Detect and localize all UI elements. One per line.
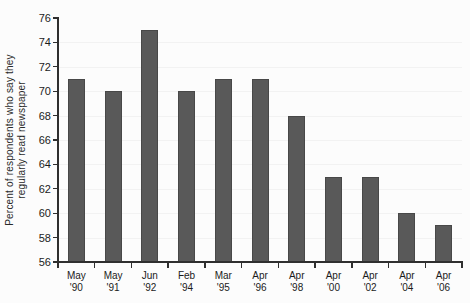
x-tick-label-month: Apr — [388, 270, 425, 282]
x-axis-line — [57, 261, 463, 263]
x-tick-label-month: Jun — [131, 270, 168, 282]
x-tick-label-month: Apr — [315, 270, 352, 282]
x-tick-label: May'91 — [95, 270, 132, 293]
y-tick-label: 74 — [31, 36, 51, 48]
x-tick-mark — [57, 263, 58, 268]
x-tick-mark — [351, 263, 352, 268]
x-tick-label-year: '06 — [425, 282, 462, 294]
y-tick-label: 72 — [31, 61, 51, 73]
x-tick-label-year: '02 — [352, 282, 389, 294]
x-tick-mark — [425, 263, 426, 268]
y-tick-label: 66 — [31, 134, 51, 146]
y-axis-title-line1: Percent of respondents who say they — [4, 15, 16, 265]
x-tick-label-month: May — [58, 270, 95, 282]
x-tick-label: Apr'00 — [315, 270, 352, 293]
x-tick-label-month: Apr — [242, 270, 279, 282]
x-tick-label-month: Apr — [278, 270, 315, 282]
x-tick-mark — [167, 263, 168, 268]
y-axis-title: Percent of respondents who say they regu… — [4, 15, 28, 265]
x-tick-label-year: '00 — [315, 282, 352, 294]
x-tick-mark — [241, 263, 242, 268]
bar-mar--95 — [215, 79, 232, 262]
x-tick-label-month: Apr — [425, 270, 462, 282]
bar-feb--94 — [178, 91, 195, 262]
bar-apr--04 — [398, 213, 415, 262]
bar-may--91 — [105, 91, 122, 262]
x-tick-mark — [94, 263, 95, 268]
x-tick-mark — [314, 263, 315, 268]
x-tick-label-month: Mar — [205, 270, 242, 282]
y-tick-label: 76 — [31, 12, 51, 24]
gridline — [59, 42, 462, 43]
x-tick-label-year: '91 — [95, 282, 132, 294]
y-tick-label: 60 — [31, 207, 51, 219]
x-tick-label: Feb'94 — [168, 270, 205, 293]
x-tick-label-year: '98 — [278, 282, 315, 294]
newspaper-readership-bar-chart: Percent of respondents who say they regu… — [0, 0, 470, 303]
y-tick-label: 70 — [31, 85, 51, 97]
y-tick-label: 62 — [31, 183, 51, 195]
gridline — [59, 67, 462, 68]
x-tick-label: Apr'06 — [425, 270, 462, 293]
x-tick-label: Jun'92 — [131, 270, 168, 293]
bar-may--90 — [68, 79, 85, 262]
bar-apr--98 — [288, 116, 305, 262]
x-tick-label: Mar'95 — [205, 270, 242, 293]
y-axis-line — [57, 17, 59, 263]
x-tick-mark — [388, 263, 389, 268]
x-tick-label-month: Feb — [168, 270, 205, 282]
x-tick-label: Apr'02 — [352, 270, 389, 293]
bar-apr--06 — [435, 225, 452, 262]
x-tick-label: Apr'98 — [278, 270, 315, 293]
y-tick-label: 68 — [31, 110, 51, 122]
x-tick-mark — [278, 263, 279, 268]
bar-apr--96 — [252, 79, 269, 262]
bar-apr--00 — [325, 177, 342, 262]
y-tick-label: 64 — [31, 158, 51, 170]
x-tick-label-year: '04 — [388, 282, 425, 294]
x-tick-label-year: '96 — [242, 282, 279, 294]
x-tick-mark — [204, 263, 205, 268]
x-tick-mark — [461, 263, 462, 268]
y-tick-label: 56 — [31, 256, 51, 268]
x-tick-label-year: '95 — [205, 282, 242, 294]
x-tick-label: May'90 — [58, 270, 95, 293]
x-tick-label: Apr'04 — [388, 270, 425, 293]
bar-apr--02 — [362, 177, 379, 262]
x-tick-label-year: '94 — [168, 282, 205, 294]
y-tick-label: 58 — [31, 232, 51, 244]
x-tick-label-month: Apr — [352, 270, 389, 282]
x-tick-label: Apr'96 — [242, 270, 279, 293]
x-tick-label-year: '92 — [131, 282, 168, 294]
x-tick-label-month: May — [95, 270, 132, 282]
bar-jun--92 — [141, 30, 158, 262]
y-axis-title-line2: regularly read newspaper — [16, 15, 28, 265]
x-tick-mark — [131, 263, 132, 268]
x-tick-label-year: '90 — [58, 282, 95, 294]
